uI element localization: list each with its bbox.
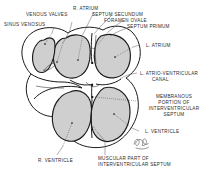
label-av-canal-line1: L. ATRIO-VENTRICULAR bbox=[140, 71, 198, 76]
label-membranous-line1: MEMBRANOUS bbox=[156, 94, 192, 99]
label-muscular-line1: MUSCULAR PART OF bbox=[98, 156, 149, 161]
label-foramen-ovale: FORAMEN OVALE bbox=[104, 18, 147, 23]
label-right-atrium: R. ATRIUM bbox=[73, 6, 98, 11]
right-ventricle-chamber bbox=[52, 91, 91, 142]
label-muscular-line2: INTERVENTRICULAR SEPTUM bbox=[98, 162, 171, 167]
artist-signature bbox=[134, 139, 149, 149]
label-membranous-line4: SEPTUM bbox=[164, 112, 185, 117]
label-sinus-venosus: SINUS VENOSUS bbox=[4, 22, 45, 27]
label-septum-secundum: SEPTUM SECUNDUM bbox=[92, 12, 143, 17]
left-atrium-chamber bbox=[94, 34, 130, 77]
label-left-atrium: L. ATRIUM bbox=[146, 43, 171, 48]
sinus-venosus-recess bbox=[33, 38, 55, 73]
label-right-ventricle: R. VENTRICLE bbox=[38, 158, 73, 163]
interatrial-septum bbox=[91, 33, 96, 64]
heart-anatomy-figure: VENOUS VALVES SINUS VENOSUS R. ATRIUM SE… bbox=[0, 0, 209, 174]
label-venous-valves: VENOUS VALVES bbox=[26, 12, 68, 17]
label-av-canal-line2: CANAL bbox=[152, 77, 169, 82]
label-membranous-line3: INTERVENTRICULAR bbox=[149, 106, 200, 111]
label-septum-primum: SEPTUM PRIMUM bbox=[127, 24, 170, 29]
left-ventricle-chamber bbox=[91, 87, 130, 141]
label-left-ventricle: L. VENTRICLE bbox=[145, 129, 179, 134]
label-membranous-line2: PORTION OF bbox=[158, 100, 189, 105]
